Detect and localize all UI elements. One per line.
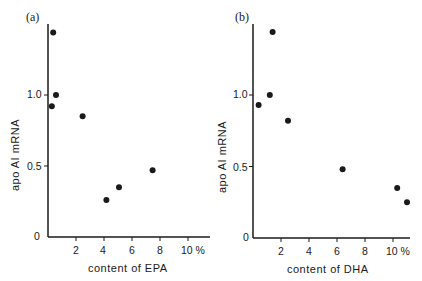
y-tick-10-b: 1.0: [233, 88, 248, 100]
data-point: [285, 118, 291, 124]
y-tick-05-b: 0.5: [233, 161, 248, 173]
data-point: [116, 184, 122, 190]
x-tick-10-a: 10 %: [181, 244, 205, 256]
chart-panel-a: (a) apo AI mRNA 0 0.5 1.0 2 4 6 8 10 % c…: [0, 0, 211, 281]
x-tick-10-b: 10 %: [386, 245, 410, 257]
data-point: [103, 197, 109, 203]
y-axis-label-a: apo AI mRNA: [9, 105, 21, 205]
chart-panel-b: (b) apo AI mRNA 0 0.5 1.0 2 4 6 8 10 % c…: [211, 0, 422, 281]
x-tick-2-a: 2: [73, 244, 79, 256]
data-point: [270, 29, 276, 35]
x-tick-2-b: 2: [278, 245, 284, 257]
plot-area-a: [0, 0, 211, 281]
data-point: [150, 167, 156, 173]
data-point: [50, 30, 56, 36]
data-point: [49, 103, 55, 109]
x-tick-4-a: 4: [100, 244, 106, 256]
data-point: [394, 185, 400, 191]
y-axis-label-b: apo AI mRNA: [216, 107, 228, 207]
x-axis-label-b: content of DHA: [287, 263, 369, 275]
data-point: [267, 92, 273, 98]
x-tick-4-b: 4: [306, 245, 312, 257]
data-point: [53, 92, 59, 98]
y-tick-05-a: 0.5: [27, 160, 42, 172]
x-tick-8-a: 8: [157, 244, 163, 256]
x-tick-6-b: 6: [334, 245, 340, 257]
x-tick-8-b: 8: [362, 245, 368, 257]
x-axis-label-a: content of EPA: [88, 262, 168, 274]
panel-label-b: (b): [235, 10, 249, 25]
data-point: [404, 199, 410, 205]
y-tick-0-a: 0: [34, 230, 40, 242]
data-point: [340, 166, 346, 172]
data-point: [256, 102, 262, 108]
panel-label-a: (a): [26, 10, 39, 25]
y-tick-0-b: 0: [243, 231, 249, 243]
data-point: [80, 113, 86, 119]
y-tick-10-a: 1.0: [27, 88, 42, 100]
x-tick-6-a: 6: [129, 244, 135, 256]
